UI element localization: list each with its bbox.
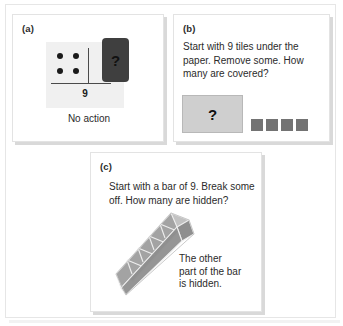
panel-c-label: (c)	[100, 161, 112, 172]
panel-b-prompt-line-1: Start with 9 tiles under the	[183, 40, 323, 54]
dot-3	[57, 68, 63, 74]
tile-3[interactable]	[281, 119, 293, 131]
panel-b: (b) Start with 9 tiles under the paper. …	[173, 14, 330, 142]
panel-a-shadow-bottom	[15, 142, 167, 145]
panel-a-total-number: 9	[46, 88, 124, 99]
dot-4	[73, 68, 79, 74]
panel-a-caption: No action	[13, 113, 165, 124]
tile-4[interactable]	[296, 119, 308, 131]
panel-b-prompt-line-2: paper. Remove some. How	[183, 54, 323, 68]
panel-c-prompt-line-2: off. How many are hidden?	[109, 194, 269, 208]
panel-a-label: (a)	[22, 23, 34, 34]
panel-c-note-line-1: The other	[179, 253, 259, 266]
dot-2	[73, 53, 79, 59]
panel-c-note-line-2: part of the bar	[179, 266, 259, 279]
figure-root: (a) 9 ? No action (b) Start with 9 tiles…	[0, 0, 343, 326]
dot-1	[57, 53, 63, 59]
panel-a-hidden-card[interactable]: ?	[102, 38, 129, 82]
panel-b-tile-row	[251, 119, 308, 131]
panel-b-prompt-line-3: many are covered?	[183, 67, 323, 81]
panel-c-shadow-right	[262, 155, 265, 315]
panel-b-shadow-bottom	[176, 142, 333, 145]
card-vertical-divider	[88, 48, 89, 83]
panel-c-prompt: Start with a bar of 9. Break some off. H…	[109, 180, 269, 207]
panel-b-prompt: Start with 9 tiles under the paper. Remo…	[183, 40, 323, 81]
panel-a: (a) 9 ? No action	[12, 14, 164, 142]
panel-c-note: The other part of the bar is hidden.	[179, 253, 259, 291]
card-horizontal-divider	[51, 83, 111, 84]
tile-2[interactable]	[266, 119, 278, 131]
panel-b-label: (b)	[183, 23, 195, 34]
panel-c-prompt-line-1: Start with a bar of 9. Break some	[109, 180, 269, 194]
outer-frame-shadow	[9, 320, 340, 323]
panel-c-note-line-3: is hidden.	[179, 278, 259, 291]
panel-c-shadow-bottom	[93, 312, 265, 315]
panel-b-paper-cover[interactable]: ?	[182, 95, 243, 133]
panel-a-shadow-right	[164, 17, 167, 145]
panel-c: (c) Start with a bar of 9. Break some of…	[90, 152, 262, 312]
panel-b-shadow-right	[330, 17, 333, 145]
tile-1[interactable]	[251, 119, 263, 131]
